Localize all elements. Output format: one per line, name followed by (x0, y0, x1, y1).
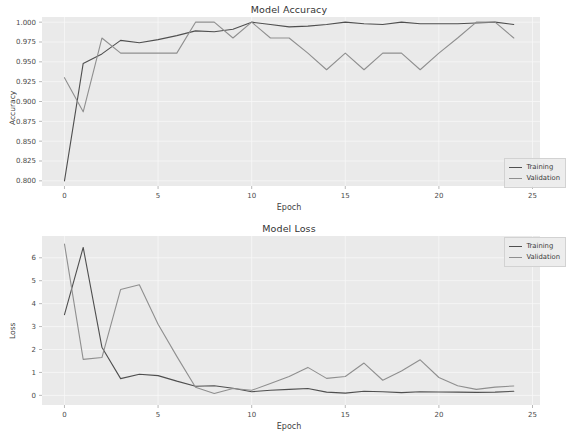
svg-text:0.875: 0.875 (16, 118, 36, 126)
svg-text:0.900: 0.900 (16, 98, 36, 106)
svg-text:0.825: 0.825 (16, 157, 36, 165)
legend-entry-training: Training (509, 162, 560, 173)
svg-text:5: 5 (156, 411, 160, 419)
legend-label-validation: Validation (526, 252, 560, 263)
svg-text:5: 5 (32, 277, 36, 285)
model-accuracy-panel: Model Accuracy 0.8000.8250.8500.8750.900… (0, 0, 578, 219)
loss-plot: 01234560510152025 (0, 219, 578, 438)
accuracy-legend: Training Validation (504, 158, 566, 188)
svg-text:25: 25 (528, 411, 537, 419)
svg-text:6: 6 (32, 254, 37, 262)
svg-text:0: 0 (62, 411, 66, 419)
svg-text:1: 1 (32, 369, 36, 377)
svg-text:0: 0 (32, 392, 36, 400)
accuracy-plot: 0.8000.8250.8500.8750.9000.9250.9500.975… (0, 0, 578, 219)
svg-text:1.000: 1.000 (16, 19, 36, 27)
legend-entry-validation: Validation (509, 252, 560, 263)
legend-label-training: Training (526, 162, 553, 173)
svg-text:0.975: 0.975 (16, 38, 36, 46)
svg-text:0: 0 (62, 192, 66, 200)
figure-container: entitled score T which became a concern … (0, 0, 578, 438)
legend-swatch-validation-icon (509, 178, 522, 179)
svg-text:20: 20 (434, 411, 443, 419)
svg-text:20: 20 (434, 192, 443, 200)
svg-text:0.950: 0.950 (16, 58, 36, 66)
svg-text:0.800: 0.800 (16, 177, 36, 185)
svg-text:15: 15 (341, 192, 350, 200)
svg-text:2: 2 (32, 346, 36, 354)
legend-swatch-training-icon (509, 167, 522, 168)
loss-y-axis-label: Loss (8, 323, 17, 339)
legend-label-training: Training (526, 241, 553, 252)
legend-entry-validation: Validation (509, 173, 560, 184)
legend-entry-training: Training (509, 241, 560, 252)
svg-text:10: 10 (247, 192, 256, 200)
legend-swatch-training-icon (509, 246, 522, 247)
svg-text:15: 15 (341, 411, 350, 419)
legend-swatch-validation-icon (509, 257, 522, 258)
model-loss-panel: Model Loss 01234560510152025 Loss Epoch … (0, 219, 578, 438)
svg-text:0.925: 0.925 (16, 78, 36, 86)
loss-x-axis-label: Epoch (0, 422, 578, 431)
accuracy-x-axis-label: Epoch (0, 203, 578, 212)
accuracy-y-axis-label: Accuracy (8, 91, 17, 125)
svg-text:5: 5 (156, 192, 160, 200)
svg-text:10: 10 (247, 411, 256, 419)
svg-text:3: 3 (32, 323, 36, 331)
loss-legend: Training Validation (504, 237, 566, 267)
legend-label-validation: Validation (526, 173, 560, 184)
svg-text:4: 4 (32, 300, 37, 308)
svg-text:25: 25 (528, 192, 537, 200)
svg-text:0.850: 0.850 (16, 138, 36, 146)
